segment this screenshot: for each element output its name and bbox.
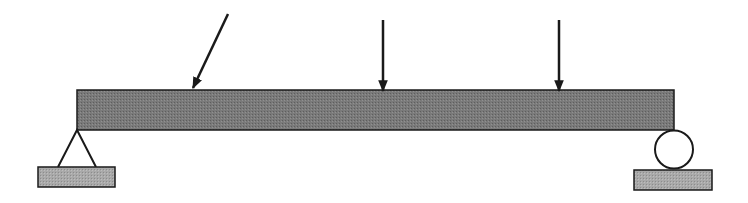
pin-triangle <box>58 130 96 167</box>
pin-support <box>38 130 115 187</box>
loads <box>193 14 559 91</box>
beam <box>77 90 674 130</box>
inclined-load-arrow-icon <box>193 14 228 88</box>
roller-circle <box>655 131 693 169</box>
roller-base-plate <box>634 170 712 190</box>
pin-base-plate <box>38 167 115 187</box>
roller-support <box>634 131 712 191</box>
beam-diagram-canvas <box>0 0 748 203</box>
beam-diagram: simply-supported-beam <box>0 0 748 203</box>
